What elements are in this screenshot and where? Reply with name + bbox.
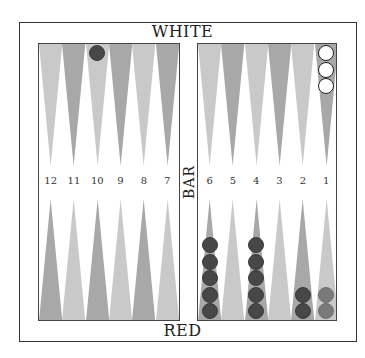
point-number-label: 2 <box>291 175 314 186</box>
player-label-red: RED <box>0 321 365 340</box>
point-11[interactable] <box>62 199 85 321</box>
point-20[interactable] <box>221 44 244 166</box>
point-13[interactable] <box>39 44 62 166</box>
point-17[interactable] <box>132 44 155 166</box>
point-3[interactable] <box>268 199 291 321</box>
red-checker[interactable] <box>318 287 334 303</box>
point-number-label: 12 <box>39 175 62 186</box>
point-22[interactable] <box>268 44 291 166</box>
point-number-label: 11 <box>62 175 85 186</box>
point-number-label: 6 <box>198 175 221 186</box>
point-21[interactable] <box>245 44 268 166</box>
point-number-label: 8 <box>132 175 155 186</box>
point-18[interactable] <box>156 44 179 166</box>
red-checker[interactable] <box>248 287 264 303</box>
bar-label: BAR <box>181 165 197 199</box>
point-7[interactable] <box>156 199 179 321</box>
point-number-label: 5 <box>221 175 244 186</box>
red-checker[interactable] <box>295 303 311 319</box>
red-checker[interactable] <box>248 254 264 270</box>
point-10[interactable] <box>86 199 109 321</box>
red-checker[interactable] <box>202 237 218 253</box>
point-number-label: 7 <box>156 175 179 186</box>
red-checker[interactable] <box>202 287 218 303</box>
outer-board: 121110987 <box>38 43 180 321</box>
home-board: 654321 <box>197 43 337 321</box>
bar[interactable]: BAR <box>180 43 197 321</box>
point-15[interactable] <box>86 44 109 166</box>
point-14[interactable] <box>62 44 85 166</box>
point-19[interactable] <box>198 44 221 166</box>
point-5[interactable] <box>221 199 244 321</box>
red-checker[interactable] <box>295 287 311 303</box>
point-23[interactable] <box>291 44 314 166</box>
point-8[interactable] <box>132 199 155 321</box>
point-number-label: 1 <box>315 175 338 186</box>
point-9[interactable] <box>109 199 132 321</box>
point-number-label: 10 <box>86 175 109 186</box>
point-number-label: 9 <box>109 175 132 186</box>
backgammon-board: 121110987 BAR 654321 <box>38 43 337 321</box>
white-checker[interactable] <box>318 62 334 78</box>
point-number-label: 3 <box>268 175 291 186</box>
point-number-label: 4 <box>245 175 268 186</box>
red-checker[interactable] <box>202 270 218 286</box>
point-16[interactable] <box>109 44 132 166</box>
point-12[interactable] <box>39 199 62 321</box>
red-checker[interactable] <box>202 303 218 319</box>
player-label-white: WHITE <box>0 22 365 41</box>
red-checker[interactable] <box>202 254 218 270</box>
